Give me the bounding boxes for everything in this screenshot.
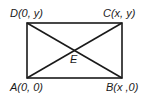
label-b: B(x ,0) [106, 81, 139, 93]
label-a: A(0, 0) [9, 81, 43, 93]
label-e: E [70, 53, 78, 65]
rectangle-diagram: D(0, y) C(x, y) A(0, 0) B(x ,0) E [0, 0, 148, 95]
label-c: C(x, y) [103, 7, 136, 19]
label-d: D(0, y) [10, 7, 43, 19]
